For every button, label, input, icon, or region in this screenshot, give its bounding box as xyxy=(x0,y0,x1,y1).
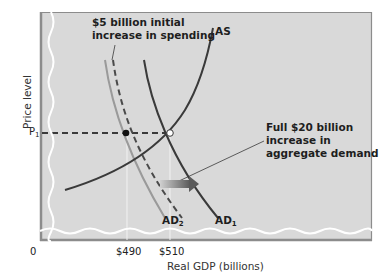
top-annotation: $5 billion initial increase in spending xyxy=(92,16,215,42)
ad1-label: AD1 xyxy=(215,214,237,231)
chart: $5 billion initial increase in spending … xyxy=(0,0,390,272)
ad2-label-base: AD xyxy=(162,214,179,226)
ad2-label-sub: 2 xyxy=(179,220,184,228)
right-annotation-line1: Full $20 billion xyxy=(266,121,378,134)
p1-sub: 1 xyxy=(35,131,39,139)
right-annotation-line2: increase in xyxy=(266,134,378,147)
x-tick-490: $490 xyxy=(116,246,141,257)
x-tick-zero: 0 xyxy=(30,246,36,257)
ad1-label-sub: 1 xyxy=(232,220,237,228)
top-annotation-line1: $5 billion initial xyxy=(92,16,215,29)
ad2-p1-point xyxy=(123,130,130,137)
as-label: AS xyxy=(215,25,231,38)
ad2-label: AD2 xyxy=(162,214,184,231)
right-annotation-line3: aggregate demand xyxy=(266,147,378,160)
x-tick-510: $510 xyxy=(159,246,184,257)
ad1-label-base: AD xyxy=(215,214,232,226)
y-axis-label: Price level xyxy=(21,67,33,137)
equilibrium-point xyxy=(167,130,174,137)
right-annotation: Full $20 billion increase in aggregate d… xyxy=(266,121,378,160)
x-axis-label: Real GDP (billions) xyxy=(167,260,264,272)
top-annotation-line2: increase in spending xyxy=(92,29,215,42)
